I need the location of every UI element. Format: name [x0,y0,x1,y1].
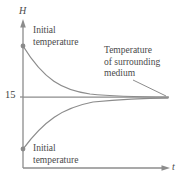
x-axis-label: t [172,161,175,172]
initial-temp-low-marker [21,147,26,152]
y-axis-arrowhead [20,19,26,28]
annotation-initial-temperature-bottom: Initial temperature [33,143,78,166]
surrounding-medium-leader-line [133,80,166,96]
warming-curve [23,98,168,149]
y-axis-tick-label-15: 15 [5,89,16,100]
x-axis-arrowhead [162,165,171,171]
diagram-canvas [0,0,184,187]
newtons-law-of-cooling-figure: H t 15 Initial temperature Initial tempe… [0,0,184,187]
y-axis-label: H [19,5,26,16]
initial-temp-high-marker [21,44,26,49]
annotation-surrounding-medium: Temperature of surrounding medium [104,45,160,80]
annotation-initial-temperature-top: Initial temperature [33,25,78,48]
